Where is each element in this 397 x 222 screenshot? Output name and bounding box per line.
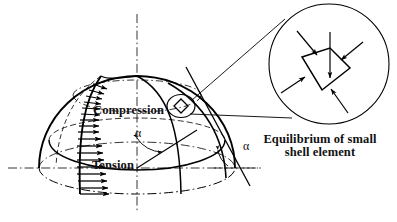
stress-arrow-field (77, 84, 109, 194)
element-arrow-bottom-left (281, 77, 305, 93)
magnifier-circle (269, 4, 389, 124)
dome-meridian-left (80, 76, 101, 194)
alpha-radial-line (137, 130, 197, 168)
alpha-arc-upper (137, 138, 162, 152)
element-arrow-top-right (341, 42, 363, 60)
magnified-shell-element (302, 48, 350, 90)
element-arrow-top-left (297, 31, 317, 55)
alpha-label-lower: α (243, 140, 249, 153)
figure-canvas: Compression Tension α α Equilibrium of s… (0, 0, 397, 222)
element-arrow-bottom-right (331, 89, 348, 113)
magnifier-group (269, 4, 389, 124)
stress-arrow (86, 96, 102, 99)
tension-label: Tension (92, 159, 134, 172)
alpha-angle-upper-group (137, 130, 197, 168)
caption-line-2: shell element (285, 145, 355, 159)
magnifier-caption: Equilibrium of smallshell element (250, 133, 390, 159)
compression-label: Compression (93, 104, 164, 117)
dome-stress-diagram (0, 0, 397, 222)
alpha-label-upper: α (135, 127, 141, 140)
dome-meridian-right (137, 76, 181, 194)
leader-line-upper (192, 19, 285, 100)
caption-line-1: Equilibrium of small (263, 132, 376, 146)
